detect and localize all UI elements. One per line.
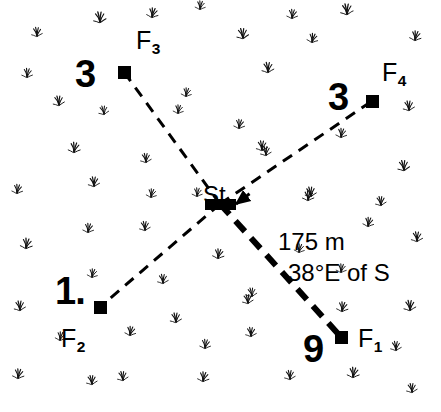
flag-marker-F4 (366, 95, 379, 108)
grass-tuft (20, 238, 33, 249)
station-label: St (203, 183, 226, 207)
grass-tuft (390, 341, 401, 351)
grass-tuft (93, 11, 107, 23)
grass-tuft (140, 153, 151, 163)
grass-tuft (192, 188, 203, 197)
grass-tuft (181, 87, 192, 97)
grass-tuft (195, 0, 206, 9)
sight-line-to-F2 (100, 204, 220, 307)
grass-tuft (236, 28, 249, 40)
grass-tuft (98, 105, 109, 115)
annotation-bearing: 38°E of S (288, 261, 390, 285)
grass-tuft (87, 268, 98, 278)
grass-tuft (363, 217, 375, 227)
grass-tuft (197, 371, 209, 382)
grass-tuft (12, 368, 24, 379)
flag-id-letter: F (358, 324, 373, 352)
grass-tuft (304, 186, 316, 197)
grass-tuft (261, 62, 274, 73)
station-arrowhead (236, 194, 250, 204)
flag-id-label-F4: F4 (382, 60, 406, 85)
flag-id-subscript: 4 (398, 72, 407, 89)
flag-id-letter: F (61, 324, 76, 352)
grass-tuft (347, 367, 360, 378)
grass-tuft (117, 371, 129, 381)
grass-tuft (245, 327, 256, 337)
grass-tuft (125, 326, 137, 336)
flag-id-subscript: 2 (77, 338, 86, 355)
flag-id-label-F2: F2 (61, 326, 85, 351)
flag-marker-F1 (335, 331, 348, 344)
grass-tuft (52, 95, 64, 106)
grass-tuft (284, 370, 295, 380)
grass-tuft (13, 300, 25, 311)
sight-line-to-F4 (220, 101, 372, 204)
grass-tuft (169, 312, 181, 323)
grass-tuft (139, 221, 150, 231)
grass-tuft (146, 7, 158, 18)
grass-tuft (200, 339, 211, 349)
flag-id-label-F3: F3 (136, 28, 160, 53)
grass-tuft (86, 375, 98, 385)
grass-tuft (83, 223, 94, 233)
flag-marker-F3 (118, 66, 131, 79)
grass-tuft (22, 68, 33, 78)
grass-tuft (246, 287, 257, 297)
grass-tuft (340, 3, 353, 15)
flag-count-label-F2: 1. (55, 272, 85, 310)
grass-tuft (409, 30, 421, 41)
grass-tuft (68, 142, 81, 153)
grass-tuft (411, 232, 423, 242)
annotation-distance: 175 m (278, 230, 345, 254)
grass-tuft (406, 383, 418, 393)
flag-id-subscript: 1 (374, 338, 383, 355)
survey-diagram-canvas: St F19F21.F33F43175 m38°E of S (0, 0, 441, 412)
grass-tuft (287, 9, 298, 19)
grass-tuft (146, 188, 157, 198)
grass-tuft (234, 119, 245, 129)
grass-tuft (31, 27, 42, 37)
grass-tuft (397, 160, 410, 172)
grass-tuft (402, 100, 414, 111)
flag-id-subscript: 3 (152, 40, 161, 57)
grass-tuft (336, 128, 348, 138)
flag-count-label-F1: 9 (303, 330, 323, 368)
grass-tuft (173, 104, 184, 114)
flag-id-letter: F (382, 58, 397, 86)
flag-count-label-F4: 3 (328, 78, 348, 116)
grass-tuft (212, 248, 224, 259)
flag-id-letter: F (136, 26, 151, 54)
grass-tuft (12, 184, 23, 194)
grass-tuft (307, 33, 319, 44)
grass-tuft (157, 274, 168, 284)
grass-tuft (336, 301, 348, 312)
flag-marker-F2 (94, 301, 107, 314)
grass-tuft (88, 176, 100, 186)
grass-tuft (375, 196, 387, 206)
flag-count-label-F3: 3 (75, 55, 95, 93)
grass-tuft (403, 300, 416, 311)
flag-id-label-F1: F1 (358, 326, 382, 351)
